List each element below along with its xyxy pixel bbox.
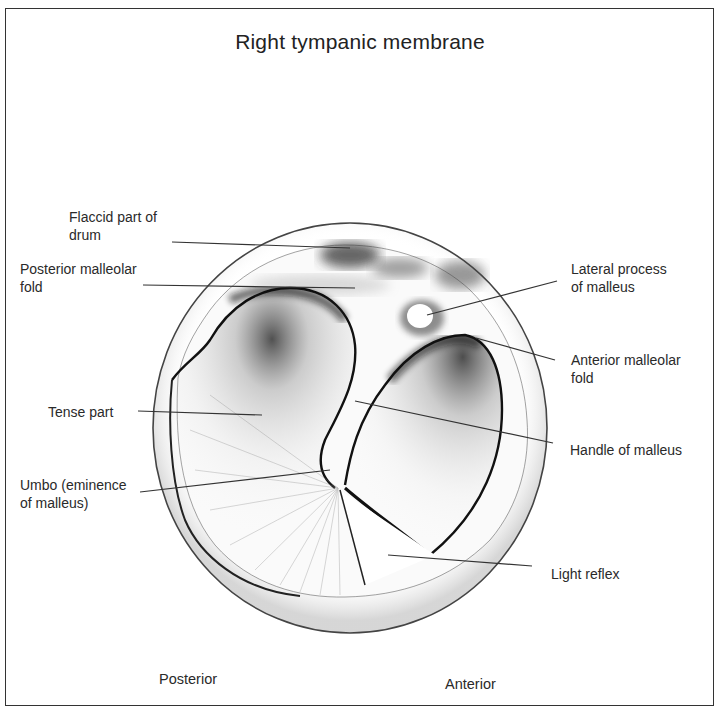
lateral-process-knob [400,300,444,336]
label-flaccid-part: Flaccid part of drum [69,208,157,244]
label-posterior-malleolar-fold: Posterior malleolar fold [20,260,137,296]
orientation-posterior: Posterior [159,671,217,687]
label-handle-of-malleus: Handle of malleus [570,441,682,459]
label-umbo: Umbo (eminence of malleus) [20,476,127,512]
label-light-reflex: Light reflex [551,565,619,583]
label-tense-part: Tense part [48,403,113,421]
orientation-anterior: Anterior [445,676,496,692]
label-anterior-malleolar-fold: Anterior malleolar fold [571,351,681,387]
label-lateral-process: Lateral process of malleus [571,260,667,296]
